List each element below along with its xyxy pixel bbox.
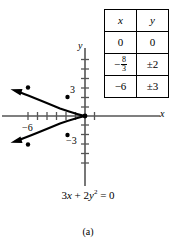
x-axis-label: x bbox=[160, 108, 164, 119]
equation-term1-var: x bbox=[67, 189, 72, 201]
point-origin bbox=[83, 114, 88, 119]
table-cell-y: ±3 bbox=[137, 76, 169, 98]
figure-caption: (a) bbox=[0, 226, 176, 237]
table-row: − 8 3 ±2 bbox=[105, 54, 169, 76]
curve-arrow-upper bbox=[11, 89, 23, 96]
values-table: x y 0 0 − 8 3 ±2 −6 ±3 bbox=[104, 9, 169, 98]
y-tick-label-pos3: 3 bbox=[70, 84, 75, 95]
table-cell-x: −6 bbox=[105, 76, 137, 98]
x-tick-label-neg6: −6 bbox=[22, 122, 33, 133]
table-header-row: x y bbox=[105, 10, 169, 32]
table-cell-y: 0 bbox=[137, 32, 169, 54]
equation-label: 3x + 2y2 = 0 bbox=[0, 188, 176, 201]
point-neg6-pos3 bbox=[26, 85, 30, 89]
equation-plus: + bbox=[75, 189, 81, 201]
table-row: −6 ±3 bbox=[105, 76, 169, 98]
y-tick-label-neg3: −3 bbox=[66, 135, 77, 146]
table-header-x: x bbox=[105, 10, 137, 32]
table-row: 0 0 bbox=[105, 32, 169, 54]
curve-arrow-lower bbox=[11, 137, 23, 144]
point-neg6-neg3 bbox=[26, 142, 30, 146]
equation-rhs: 0 bbox=[109, 189, 115, 201]
point-neg8third-pos2 bbox=[65, 95, 69, 99]
fraction-sign: − bbox=[114, 59, 120, 70]
fraction-denominator: 3 bbox=[121, 65, 127, 73]
table-cell-y: ±2 bbox=[137, 54, 169, 76]
equation-equals: = bbox=[100, 189, 106, 201]
y-axis-label: y bbox=[78, 40, 82, 51]
table-header-y: y bbox=[137, 10, 169, 32]
table-cell-x: − 8 3 bbox=[105, 54, 137, 76]
table-cell-x: 0 bbox=[105, 32, 137, 54]
fraction-neg-eight-thirds: − 8 3 bbox=[114, 56, 127, 73]
fraction-body: 8 3 bbox=[121, 56, 127, 73]
equation-term2-exponent: 2 bbox=[94, 188, 98, 196]
